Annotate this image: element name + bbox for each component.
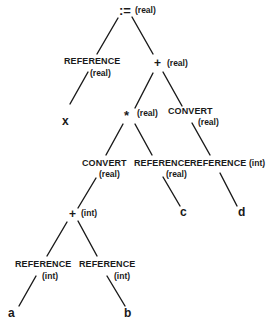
node-plus-real-label: + xyxy=(154,57,161,69)
edge-plus-int-ref-b xyxy=(78,221,97,256)
edge-mul-convert-left xyxy=(106,124,123,155)
leaf-x: x xyxy=(62,115,69,127)
node-assign-type: (real) xyxy=(135,6,156,15)
node-mul-label: * xyxy=(124,109,129,122)
node-ref-x-label: REFERENCE xyxy=(64,57,120,66)
node-plus-real-type: (real) xyxy=(167,59,188,68)
node-convert-left-label: CONVERT xyxy=(82,159,127,168)
edge-plus-real-convert-right xyxy=(163,72,182,106)
leaf-b: b xyxy=(124,307,131,319)
node-ref-x-type: (real) xyxy=(90,69,111,78)
node-ref-d-label: REFERENCE xyxy=(190,159,246,168)
edge-ref-d-leaf-d xyxy=(220,173,237,206)
edge-assign-ref-x xyxy=(97,18,118,54)
node-plus-int-type: (int) xyxy=(81,209,97,218)
node-convert-left-type: (real) xyxy=(99,170,120,179)
syntax-tree-diagram: := (real) REFERENCE (real) x + (real) * … xyxy=(0,0,277,326)
node-ref-d-type: (int) xyxy=(249,159,265,168)
leaf-d: d xyxy=(238,206,245,218)
edge-ref-a-leaf-a xyxy=(19,276,36,306)
node-ref-c-type: (real) xyxy=(166,170,187,179)
node-ref-c-label: REFERENCE xyxy=(134,159,190,168)
edge-convert-right-ref-d xyxy=(192,123,210,155)
node-convert-right-type: (real) xyxy=(198,118,219,127)
edge-convert-left-plus-int xyxy=(78,178,96,208)
edge-plus-real-mul xyxy=(135,73,153,108)
node-plus-int-label: + xyxy=(69,208,76,220)
edge-mul-ref-c xyxy=(135,124,152,155)
leaf-a: a xyxy=(8,307,15,319)
node-ref-a-type: (int) xyxy=(42,272,58,281)
node-convert-right-label: CONVERT xyxy=(168,107,213,116)
edge-ref-c-leaf-c xyxy=(163,177,180,206)
leaf-c: c xyxy=(180,206,187,218)
node-mul-type: (real) xyxy=(137,109,158,118)
node-ref-b-type: (int) xyxy=(114,272,130,281)
node-ref-a-label: REFERENCE xyxy=(15,260,71,269)
edge-ref-x-leaf-x xyxy=(70,72,88,104)
edge-plus-int-ref-a xyxy=(47,222,67,256)
node-ref-b-label: REFERENCE xyxy=(79,260,135,269)
node-assign-label: := xyxy=(119,4,131,17)
edge-assign-plus-real xyxy=(132,17,153,54)
